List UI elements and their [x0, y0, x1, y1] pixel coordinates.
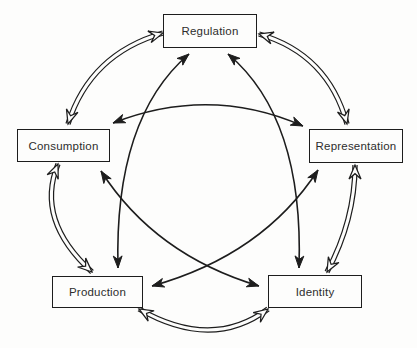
edge-regulation-production	[118, 54, 189, 268]
node-representation-label: Representation	[316, 140, 397, 152]
edge-consumption-production	[51, 164, 92, 272]
node-production-label: Production	[69, 286, 126, 298]
edge-consumption-representation	[113, 105, 303, 126]
node-representation: Representation	[309, 129, 403, 163]
edge-production-representation-arrowhead-icon-1	[308, 170, 318, 182]
edge-representation-identity	[327, 165, 355, 272]
edge-regulation-consumption-inner	[68, 33, 163, 124]
node-production: Production	[52, 276, 143, 308]
node-regulation-label: Regulation	[182, 25, 239, 37]
edge-production-representation	[152, 170, 318, 286]
node-identity-label: Identity	[296, 286, 335, 298]
edge-regulation-consumption	[68, 33, 163, 124]
node-consumption: Consumption	[17, 129, 110, 162]
circuit-of-culture-diagram: Regulation Consumption Representation Pr…	[0, 0, 417, 348]
edge-production-identity-inner	[139, 309, 268, 330]
node-regulation: Regulation	[163, 14, 257, 48]
edge-regulation-identity	[228, 54, 299, 268]
edge-consumption-identity-arrowhead-icon-0	[101, 171, 111, 183]
node-identity: Identity	[268, 275, 362, 308]
node-consumption-label: Consumption	[29, 140, 99, 152]
edge-consumption-identity	[101, 171, 259, 286]
